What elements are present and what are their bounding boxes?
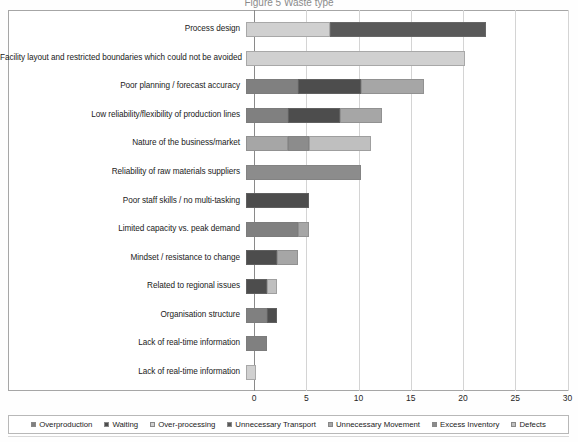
bar-segment[interactable] bbox=[267, 308, 277, 323]
bar-segment[interactable] bbox=[246, 136, 288, 151]
legend-swatch-icon bbox=[150, 422, 155, 427]
legend-item[interactable]: Unnecessary Movement bbox=[328, 420, 420, 429]
stacked-bar[interactable] bbox=[246, 22, 486, 37]
legend-swatch-icon bbox=[511, 422, 516, 427]
legend-item[interactable]: Overproduction bbox=[31, 420, 92, 429]
category-label: Organisation structure bbox=[0, 310, 246, 320]
category-label: Reliability of raw materials suppliers bbox=[0, 167, 246, 177]
legend-label: Defects bbox=[519, 420, 545, 429]
legend-label: Excess Inventory bbox=[440, 420, 499, 429]
bar-segment[interactable] bbox=[288, 108, 340, 123]
bar-track bbox=[246, 358, 570, 387]
legend-label: Waiting bbox=[112, 420, 138, 429]
stacked-bar[interactable] bbox=[246, 250, 298, 265]
bar-track bbox=[246, 44, 570, 73]
stacked-bar[interactable] bbox=[246, 222, 309, 237]
legend-swatch-icon bbox=[432, 422, 437, 427]
bar-track bbox=[246, 186, 570, 215]
bar-track bbox=[246, 272, 570, 301]
category-label: Limited capacity vs. peak demand bbox=[0, 224, 246, 234]
chart-row: Organisation structure bbox=[0, 301, 578, 330]
legend-label: Unnecessary Movement bbox=[336, 420, 420, 429]
bar-segment[interactable] bbox=[267, 279, 277, 294]
bar-segment[interactable] bbox=[246, 193, 309, 208]
bar-segment[interactable] bbox=[246, 308, 267, 323]
chart-row: Low reliability/flexibility of productio… bbox=[0, 101, 578, 130]
legend-label: Unnecessary Transport bbox=[235, 420, 316, 429]
legend-label: Over-processing bbox=[158, 420, 215, 429]
stacked-bar[interactable] bbox=[246, 365, 256, 380]
chart-row: Process design bbox=[0, 15, 578, 44]
stacked-bar[interactable] bbox=[246, 108, 382, 123]
bar-track bbox=[246, 129, 570, 158]
chart-row: Nature of the business/market bbox=[0, 129, 578, 158]
bar-segment[interactable] bbox=[246, 79, 298, 94]
bar-track bbox=[246, 72, 570, 101]
category-label: Low reliability/flexibility of productio… bbox=[0, 110, 246, 120]
stacked-bar[interactable] bbox=[246, 279, 277, 294]
stacked-bar[interactable] bbox=[246, 193, 309, 208]
bar-segment[interactable] bbox=[309, 136, 372, 151]
bar-segment[interactable] bbox=[246, 108, 288, 123]
bar-segment[interactable] bbox=[340, 108, 382, 123]
legend-label: Overproduction bbox=[39, 420, 92, 429]
stacked-bar[interactable] bbox=[246, 79, 424, 94]
x-tick-label-0: 0 bbox=[252, 393, 257, 403]
legend-item[interactable]: Over-processing bbox=[150, 420, 215, 429]
x-tick-label-20: 20 bbox=[458, 393, 467, 403]
legend-item[interactable]: Waiting bbox=[104, 420, 138, 429]
bar-segment[interactable] bbox=[298, 79, 361, 94]
bar-segment[interactable] bbox=[246, 336, 267, 351]
stacked-bar[interactable] bbox=[246, 336, 267, 351]
waste-type-stacked-bar-chart: Figure 5 Waste type Process designFacili… bbox=[0, 0, 578, 442]
bar-segment[interactable] bbox=[246, 279, 267, 294]
bar-segment[interactable] bbox=[246, 222, 298, 237]
legend-swatch-icon bbox=[31, 422, 36, 427]
chart-row: Mindset / resistance to change bbox=[0, 243, 578, 272]
bar-segment[interactable] bbox=[246, 365, 256, 380]
bar-segment[interactable] bbox=[361, 79, 424, 94]
legend-item[interactable]: Excess Inventory bbox=[432, 420, 499, 429]
bar-segment[interactable] bbox=[288, 136, 309, 151]
chart-row: Lack of real-time information bbox=[0, 358, 578, 387]
legend-swatch-icon bbox=[328, 422, 333, 427]
category-label: Lack of real-time information bbox=[0, 338, 246, 348]
x-tick-label-10: 10 bbox=[354, 393, 363, 403]
bar-segment[interactable] bbox=[298, 222, 308, 237]
bar-segment[interactable] bbox=[330, 22, 487, 37]
category-label: Facility layout and restricted boundarie… bbox=[0, 53, 246, 63]
chart-legend: OverproductionWaitingOver-processingUnne… bbox=[8, 415, 569, 434]
category-label: Nature of the business/market bbox=[0, 138, 246, 148]
x-tick-label-25: 25 bbox=[511, 393, 520, 403]
stacked-bar[interactable] bbox=[246, 308, 277, 323]
bar-segment[interactable] bbox=[246, 250, 277, 265]
bar-track bbox=[246, 101, 570, 130]
category-label: Poor staff skills / no multi-tasking bbox=[0, 196, 246, 206]
chart-row: Lack of real-time information bbox=[0, 329, 578, 358]
category-label: Process design bbox=[0, 24, 246, 34]
bar-segment[interactable] bbox=[246, 51, 465, 66]
legend-bottom-divider bbox=[8, 436, 569, 437]
category-label: Lack of real-time information bbox=[0, 367, 246, 377]
stacked-bar[interactable] bbox=[246, 136, 371, 151]
chart-row: Reliability of raw materials suppliers bbox=[0, 158, 578, 187]
chart-row: Facility layout and restricted boundarie… bbox=[0, 44, 578, 73]
category-label: Mindset / resistance to change bbox=[0, 253, 246, 263]
chart-row: Limited capacity vs. peak demand bbox=[0, 215, 578, 244]
bar-segment[interactable] bbox=[277, 250, 298, 265]
legend-item[interactable]: Unnecessary Transport bbox=[227, 420, 316, 429]
bar-segment[interactable] bbox=[246, 22, 330, 37]
stacked-bar[interactable] bbox=[246, 165, 361, 180]
x-axis-tick-labels: 051015202530 bbox=[0, 393, 578, 409]
legend-item[interactable]: Defects bbox=[511, 420, 545, 429]
stacked-bar[interactable] bbox=[246, 51, 465, 66]
chart-row: Related to regional issues bbox=[0, 272, 578, 301]
bar-track bbox=[246, 243, 570, 272]
bar-track bbox=[246, 15, 570, 44]
bar-segment[interactable] bbox=[246, 165, 361, 180]
chart-row: Poor staff skills / no multi-tasking bbox=[0, 186, 578, 215]
category-label: Poor planning / forecast accuracy bbox=[0, 81, 246, 91]
bar-track bbox=[246, 158, 570, 187]
x-tick-label-15: 15 bbox=[406, 393, 415, 403]
bar-track bbox=[246, 329, 570, 358]
